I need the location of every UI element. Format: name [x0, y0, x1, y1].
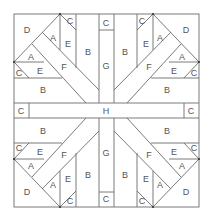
- label-b: B: [85, 170, 91, 180]
- label-b: B: [122, 47, 128, 57]
- label-a: A: [179, 161, 185, 171]
- label-c: C: [16, 68, 23, 78]
- label-b: B: [164, 85, 170, 95]
- apex-dot: [13, 158, 15, 160]
- label-a: A: [28, 161, 34, 171]
- label-c: C: [191, 143, 198, 153]
- label-d: D: [183, 187, 190, 197]
- label-e: E: [171, 66, 177, 76]
- label-g: G: [102, 61, 109, 71]
- label-d: D: [24, 187, 31, 197]
- label-c: C: [139, 196, 146, 206]
- label-b: B: [40, 126, 46, 136]
- label-a: A: [28, 52, 34, 62]
- label-b: B: [164, 126, 170, 136]
- label-e: E: [37, 66, 43, 76]
- apex-dot: [59, 13, 61, 15]
- apex-dot: [152, 13, 154, 15]
- label-g: G: [102, 148, 109, 158]
- apex-dot: [13, 61, 15, 63]
- label-d: D: [24, 25, 31, 35]
- label-e: E: [171, 147, 177, 157]
- label-c: C: [188, 106, 195, 116]
- apex-dot: [152, 206, 154, 208]
- apex-dot: [59, 206, 61, 208]
- label-a: A: [179, 52, 185, 62]
- label-b: B: [85, 47, 91, 57]
- label-f: F: [61, 62, 67, 72]
- quilt-block-diagram: D A C E B A E F C B C G D A C E B A E F …: [0, 0, 213, 222]
- label-c: C: [139, 16, 146, 26]
- label-c: C: [67, 16, 74, 26]
- label-c: C: [103, 194, 110, 204]
- label-d: D: [183, 25, 190, 35]
- label-f: F: [146, 62, 152, 72]
- label-f: F: [146, 150, 152, 160]
- label-c: C: [67, 196, 74, 206]
- label-c: C: [191, 68, 198, 78]
- label-e: E: [65, 174, 71, 184]
- label-e: E: [143, 39, 149, 49]
- label-c: C: [18, 106, 25, 116]
- label-b: B: [122, 170, 128, 180]
- label-b: B: [40, 85, 46, 95]
- label-a: A: [157, 33, 163, 43]
- label-e: E: [143, 174, 149, 184]
- label-c: C: [16, 143, 23, 153]
- label-c: C: [103, 18, 110, 28]
- label-a: A: [50, 33, 56, 43]
- label-h: H: [103, 106, 110, 116]
- label-e: E: [65, 39, 71, 49]
- label-f: F: [61, 150, 67, 160]
- apex-dot: [198, 158, 200, 160]
- label-a: A: [157, 180, 163, 190]
- label-a: A: [50, 180, 56, 190]
- label-e: E: [37, 147, 43, 157]
- apex-dot: [198, 61, 200, 63]
